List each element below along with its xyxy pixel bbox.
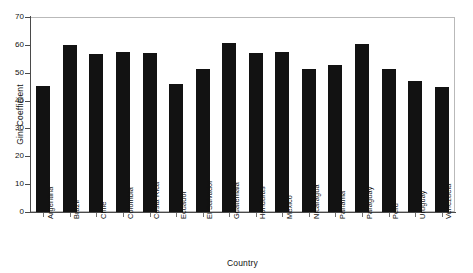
gini-coefficient-bar-chart: Gini Coefficient 010203040506070 Argenti…	[0, 0, 473, 273]
bar	[89, 54, 103, 212]
x-tick-label: Mexico	[286, 195, 294, 219]
x-tick-label: Venezuela	[445, 184, 453, 219]
x-tick-mark	[389, 213, 390, 217]
y-tick-label: 50	[2, 69, 24, 77]
x-tick-label: Panama	[339, 191, 347, 219]
x-tick-mark	[176, 213, 177, 217]
x-tick-mark	[229, 213, 230, 217]
x-tick-mark	[442, 213, 443, 217]
y-tick-label-wrap: 0	[0, 208, 24, 216]
y-tick-label-wrap: 10	[0, 180, 24, 188]
x-tick-label: Nicaragua	[313, 184, 321, 219]
x-tick-mark	[150, 213, 151, 217]
x-tick-label: Argentina	[47, 186, 55, 219]
y-tick-label-wrap: 20	[0, 152, 24, 160]
x-tick-label: Ecuador	[180, 191, 188, 219]
x-tick-mark	[43, 213, 44, 217]
y-tick-label-wrap: 70	[0, 13, 24, 21]
x-tick-label: Costa Rica	[153, 182, 161, 219]
x-tick-mark	[309, 213, 310, 217]
y-tick-label: 0	[2, 208, 24, 216]
x-tick-mark	[96, 213, 97, 217]
x-tick-label: Paraguay	[366, 187, 374, 219]
y-tick-label-wrap: 30	[0, 124, 24, 132]
y-tick-label: 40	[2, 97, 24, 105]
x-tick-mark	[415, 213, 416, 217]
y-tick-label-wrap: 50	[0, 69, 24, 77]
x-tick-label: El Salvador	[206, 180, 214, 219]
bar	[382, 69, 396, 212]
x-tick-label: Uruguay	[419, 190, 427, 219]
bar	[63, 45, 77, 212]
x-tick-mark	[282, 213, 283, 217]
y-tick-label: 60	[2, 41, 24, 49]
y-tick-label: 70	[2, 13, 24, 21]
x-tick-label: Peru	[392, 203, 400, 219]
x-tick-mark	[335, 213, 336, 217]
x-tick-label: Chile	[100, 202, 108, 219]
bar	[275, 52, 289, 212]
x-tick-label: Colombia	[127, 187, 135, 219]
x-axis-title: Country	[30, 258, 455, 268]
x-tick-mark	[362, 213, 363, 217]
bar-series	[30, 17, 455, 212]
x-tick-label: Brazil	[73, 200, 81, 219]
x-tick-mark	[256, 213, 257, 217]
y-tick-label-wrap: 60	[0, 41, 24, 49]
y-tick-label: 10	[2, 180, 24, 188]
x-tick-label: Guatemala	[233, 182, 241, 219]
y-tick-label: 30	[2, 124, 24, 132]
x-tick-mark	[123, 213, 124, 217]
y-tick-label-wrap: 40	[0, 97, 24, 105]
y-tick-label: 20	[2, 152, 24, 160]
x-tick-label: Honduras	[259, 186, 267, 219]
x-tick-mark	[70, 213, 71, 217]
x-tick-mark	[203, 213, 204, 217]
